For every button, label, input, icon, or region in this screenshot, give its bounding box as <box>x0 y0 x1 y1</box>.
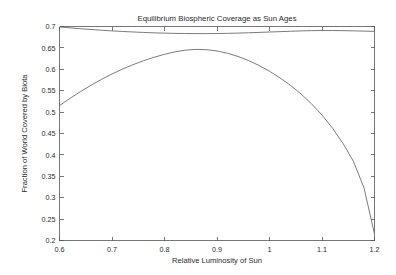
x-tick-label: 0.9 <box>212 245 222 254</box>
chart-title: Equilibrium Biospheric Coverage as Sun A… <box>137 14 296 23</box>
x-tick-label: 0.7 <box>107 245 117 254</box>
x-axis-title: Relative Luminosity of Sun <box>172 256 262 265</box>
data-curve-peaked-declining-curve <box>60 49 375 234</box>
y-tick-label: 0.2 <box>46 236 56 245</box>
y-tick-label: 0.5 <box>46 108 56 117</box>
y-tick-label: 0.45 <box>42 129 56 138</box>
x-tick-label: 1.2 <box>370 245 380 254</box>
y-tick-label: 0.55 <box>42 86 56 95</box>
y-tick-label: 0.7 <box>46 22 56 31</box>
x-tick-label: 1 <box>268 245 272 254</box>
chart-canvas: 0.60.70.80.911.11.20.20.250.30.350.40.45… <box>0 0 396 275</box>
x-tick-label: 1.1 <box>317 245 327 254</box>
plot-box <box>60 27 375 241</box>
y-tick-label: 0.3 <box>46 193 56 202</box>
y-tick-label: 0.4 <box>46 151 56 160</box>
y-axis-title: Fraction of World Covered by Biota <box>20 74 29 193</box>
x-tick-label: 0.6 <box>55 245 65 254</box>
y-tick-label: 0.6 <box>46 65 56 74</box>
x-tick-label: 0.8 <box>160 245 170 254</box>
y-tick-label: 0.35 <box>42 172 56 181</box>
y-tick-label: 0.25 <box>42 215 56 224</box>
y-tick-label: 0.65 <box>42 44 56 53</box>
chart-figure: 0.60.70.80.911.11.20.20.250.30.350.40.45… <box>0 0 396 275</box>
